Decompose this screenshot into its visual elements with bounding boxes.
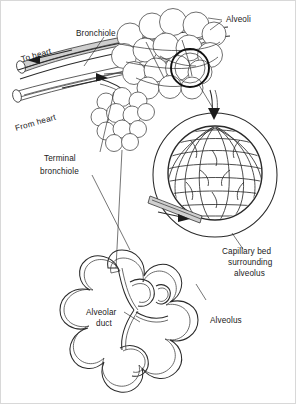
- duct-wall-2: [136, 312, 168, 318]
- label-terminal-bronchiole-line1: Terminal: [44, 154, 76, 163]
- duct-wall-1: [118, 268, 134, 310]
- magnified-alveolus-sphere: [168, 126, 262, 220]
- alveoli-cluster-top: [112, 9, 227, 100]
- alveolar-duct-group: [60, 250, 198, 392]
- duct-wall-2b: [136, 316, 168, 322]
- label-capillary-bed-line1: Capillary bed: [222, 247, 271, 256]
- label-capillary-bed-line2: surrounding: [228, 258, 273, 267]
- duct-inner-loop-1b: [132, 284, 150, 303]
- label-alveolar-duct-line1: Alveolar: [86, 308, 117, 317]
- magnified-alveolus-group: [148, 90, 277, 237]
- label-alveolar-duct-line2: duct: [96, 319, 113, 328]
- alveolus-label-leader: [196, 284, 206, 300]
- terminal-bronchiole-label-leader-down: [92, 175, 130, 250]
- alveoli-label-leader-1: [208, 18, 222, 20]
- label-alveoli: Alveoli: [226, 15, 251, 24]
- magnified-inflow-arrowhead: [208, 108, 220, 120]
- label-from-heart: From heart: [14, 113, 57, 133]
- anatomy-diagram-figure: Bronchiole To heart From heart Alveoli T…: [0, 0, 296, 404]
- label-bronchiole: Bronchiole: [76, 29, 116, 38]
- label-alveolus: Alveolus: [210, 316, 242, 325]
- duct-wall-3: [122, 310, 134, 350]
- label-capillary-bed-line3: alveolus: [234, 269, 265, 278]
- alveolar-duct-outline-outer: [60, 250, 198, 392]
- label-terminal-bronchiole-line2: bronchiole: [40, 167, 79, 176]
- alveoli-cluster-small: [91, 88, 155, 152]
- diagram-canvas: Bronchiole To heart From heart Alveoli T…: [0, 0, 296, 404]
- duct-inner-loop-2b: [158, 288, 168, 301]
